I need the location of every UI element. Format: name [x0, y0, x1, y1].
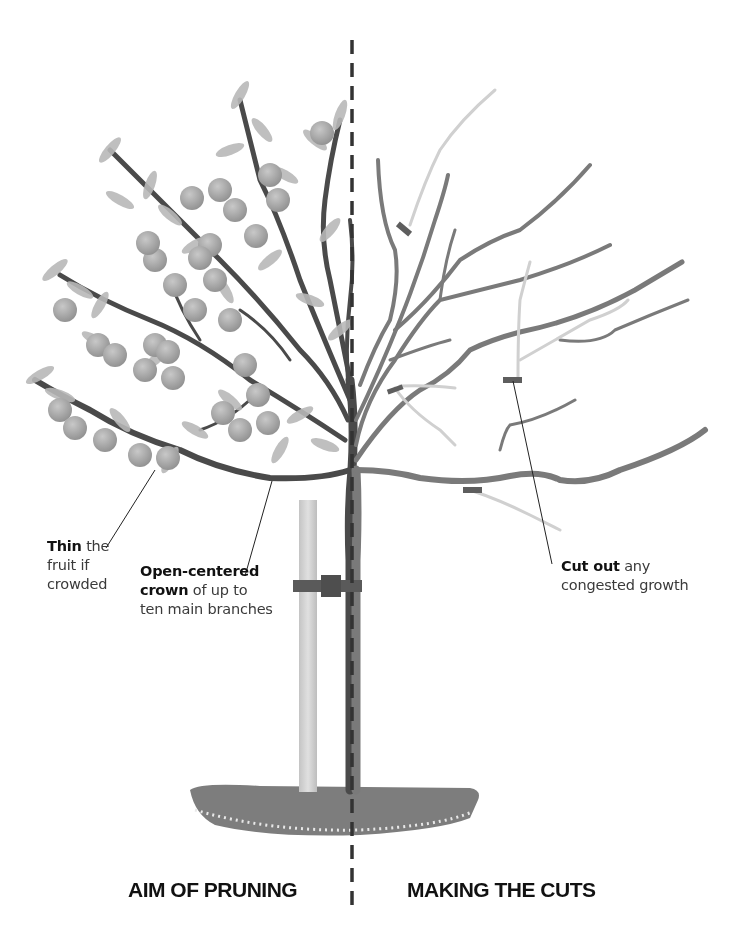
- pruning-illustration: [0, 0, 736, 945]
- annotation-open-centered-crown: Open-centered crown of up to ten main br…: [140, 562, 273, 619]
- annotation-bold-text: crown: [140, 582, 188, 598]
- caption-aim-of-pruning: AIM OF PRUNING: [128, 878, 297, 902]
- annotation-text: any: [620, 558, 650, 574]
- soil-mound: [190, 785, 479, 836]
- support-stake: [299, 500, 317, 792]
- annotation-cut-out: Cut out any congested growth: [561, 557, 688, 595]
- annotation-text: the: [82, 538, 110, 554]
- annotation-thin-fruit: Thin the fruit if crowded: [47, 537, 109, 594]
- annotation-text: crowded: [47, 575, 109, 594]
- foliage: [24, 79, 355, 476]
- annotation-bold-text: Open-centered: [140, 563, 259, 579]
- caption-making-the-cuts: MAKING THE CUTS: [407, 878, 596, 902]
- annotation-text: of up to: [188, 582, 247, 598]
- annotation-bold-text: Thin: [47, 538, 82, 554]
- right-tree-branches: [356, 160, 705, 790]
- annotation-text: congested growth: [561, 576, 688, 595]
- annotation-bold-text: Cut out: [561, 558, 620, 574]
- cut-markers: [387, 222, 522, 493]
- annotation-text: fruit if: [47, 556, 109, 575]
- annotation-text: ten main branches: [140, 600, 273, 619]
